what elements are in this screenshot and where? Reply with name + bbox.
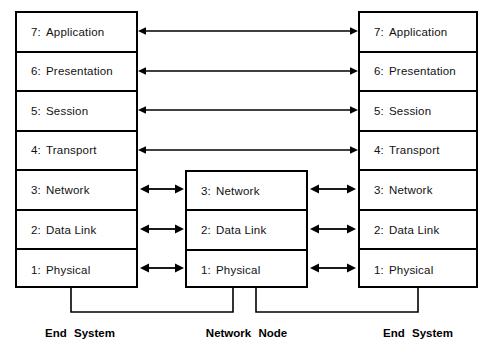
peer-arrow-application — [138, 25, 358, 37]
caption-end-system-left: End System — [0, 327, 160, 339]
end-system-left-stack: 7: Application 6: Presentation 5: Sessio… — [15, 11, 138, 288]
layer-label: Session — [46, 105, 88, 117]
layer-number: 3: — [201, 185, 211, 197]
layer-physical-left: 1: Physical — [17, 250, 136, 290]
layer-number: 6: — [374, 65, 384, 77]
layer-label: Physical — [46, 264, 90, 276]
layer-label: Physical — [216, 264, 260, 276]
layer-transport-left: 4: Transport — [17, 132, 136, 172]
layer-number: 2: — [201, 224, 211, 236]
layer-number: 1: — [31, 264, 41, 276]
layer-number: 7: — [31, 26, 41, 38]
physical-link-left-to-node — [70, 286, 240, 314]
network-node-stack: 3: Network 2: Data Link 1: Physical — [185, 170, 308, 288]
layer-number: 2: — [31, 224, 41, 236]
peer-arrow-transport — [138, 144, 358, 156]
layer-network-node: 3: Network — [187, 172, 306, 211]
layer-session-left: 5: Session — [17, 92, 136, 132]
layer-label: Presentation — [46, 65, 113, 77]
layer-datalink-right: 2: Data Link — [360, 211, 476, 251]
layer-number: 6: — [31, 65, 41, 77]
layer-label: Data Link — [389, 224, 439, 236]
layer-number: 5: — [374, 105, 384, 117]
layer-transport-right: 4: Transport — [360, 132, 476, 172]
layer-session-right: 5: Session — [360, 92, 476, 132]
layer-label: Data Link — [46, 224, 96, 236]
link-arrow-datalink-right — [310, 223, 356, 235]
layer-network-right: 3: Network — [360, 171, 476, 211]
caption-end-system-right: End System — [348, 327, 488, 339]
layer-physical-right: 1: Physical — [360, 250, 476, 290]
layer-presentation-right: 6: Presentation — [360, 53, 476, 93]
layer-number: 7: — [374, 26, 384, 38]
osi-model-diagram: 7: Application 6: Presentation 5: Sessio… — [0, 0, 488, 356]
layer-datalink-node: 2: Data Link — [187, 211, 306, 250]
layer-label: Application — [389, 26, 447, 38]
layer-label: Network — [46, 184, 90, 196]
layer-physical-node: 1: Physical — [187, 251, 306, 290]
layer-number: 4: — [374, 144, 384, 156]
layer-label: Transport — [46, 144, 97, 156]
layer-datalink-left: 2: Data Link — [17, 211, 136, 251]
layer-label: Application — [46, 26, 104, 38]
layer-label: Physical — [389, 264, 433, 276]
layer-presentation-left: 6: Presentation — [17, 53, 136, 93]
layer-number: 4: — [31, 144, 41, 156]
layer-number: 5: — [31, 105, 41, 117]
layer-number: 1: — [201, 264, 211, 276]
peer-arrow-session — [138, 104, 358, 116]
layer-application-left: 7: Application — [17, 13, 136, 53]
layer-number: 3: — [374, 184, 384, 196]
layer-label: Data Link — [216, 224, 266, 236]
layer-number: 3: — [31, 184, 41, 196]
layer-label: Session — [389, 105, 431, 117]
layer-label: Network — [389, 184, 433, 196]
link-arrow-network-right — [310, 183, 356, 195]
physical-link-node-to-right — [255, 286, 425, 314]
layer-application-right: 7: Application — [360, 13, 476, 53]
layer-number: 1: — [374, 264, 384, 276]
layer-label: Presentation — [389, 65, 456, 77]
link-arrow-datalink-left — [140, 223, 184, 235]
layer-label: Network — [216, 185, 260, 197]
link-arrow-network-left — [140, 183, 184, 195]
layer-network-left: 3: Network — [17, 171, 136, 211]
link-arrow-physical-left — [140, 262, 184, 274]
layer-number: 2: — [374, 224, 384, 236]
layer-label: Transport — [389, 144, 440, 156]
peer-arrow-presentation — [138, 65, 358, 77]
link-arrow-physical-right — [310, 262, 356, 274]
caption-network-node: Network Node — [175, 327, 318, 339]
end-system-right-stack: 7: Application 6: Presentation 5: Sessio… — [358, 11, 478, 288]
